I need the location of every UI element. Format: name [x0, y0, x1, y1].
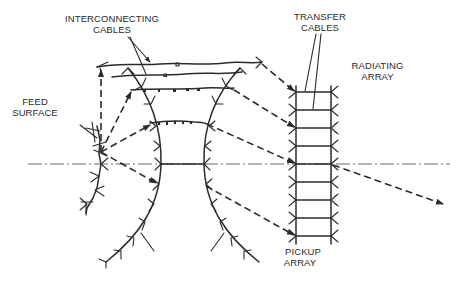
- label-transfer-cables-line2: CABLES: [290, 22, 350, 33]
- label-radiating-array: RADIATING ARRAY: [350, 60, 405, 82]
- right-lens-surface: [204, 68, 259, 262]
- label-pickup-array-line2: ARRAY: [279, 257, 321, 268]
- label-feed-surface-line1: FEED: [12, 96, 58, 107]
- feed-surface: [80, 122, 108, 215]
- label-transfer-cables: TRANSFER CABLES: [290, 11, 350, 33]
- lens-antenna-diagram: [0, 0, 463, 285]
- label-radiating-array-line1: RADIATING: [350, 60, 405, 71]
- label-transfer-cables-line1: TRANSFER: [290, 11, 350, 22]
- pickup-radiating-array: [289, 86, 338, 244]
- label-feed-surface: FEED SURFACE: [12, 96, 58, 118]
- label-interconnecting-cables-line2: CABLES: [62, 24, 162, 35]
- label-interconnecting-cables: INTERCONNECTING CABLES: [62, 13, 162, 35]
- label-leaders: [128, 34, 321, 109]
- label-pickup-array-line1: PICKUP: [279, 246, 321, 257]
- label-radiating-array-line2: ARRAY: [350, 71, 405, 82]
- label-pickup-array: PICKUP ARRAY: [279, 246, 321, 268]
- label-interconnecting-cables-line1: INTERCONNECTING: [62, 13, 162, 24]
- label-feed-surface-line2: SURFACE: [12, 107, 58, 118]
